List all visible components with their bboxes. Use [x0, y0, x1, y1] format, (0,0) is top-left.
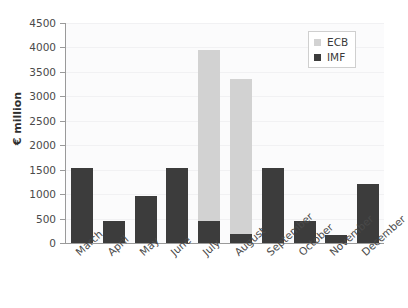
- imf-swatch-icon: [314, 54, 321, 61]
- bar-segment-ecb[interactable]: [230, 79, 252, 234]
- y-tick-label: 1000: [0, 189, 56, 199]
- bar-group: [71, 168, 93, 243]
- bar-segment-ecb[interactable]: [198, 50, 220, 221]
- y-tick-mark: [60, 96, 65, 97]
- y-tick-mark: [60, 243, 65, 244]
- legend-item-imf[interactable]: IMF: [314, 51, 348, 63]
- gridline: [66, 194, 384, 195]
- y-tick-mark: [60, 170, 65, 171]
- legend-label-ecb: ECB: [327, 37, 348, 47]
- y-tick-mark: [60, 219, 65, 220]
- y-tick-mark: [60, 47, 65, 48]
- y-tick-label: 2000: [0, 140, 56, 150]
- gridline: [66, 72, 384, 73]
- y-tick-label: 0: [0, 238, 56, 248]
- gridline: [66, 96, 384, 97]
- bar-group: [166, 168, 188, 243]
- y-tick-label: 3000: [0, 91, 56, 101]
- y-tick-mark: [60, 121, 65, 122]
- y-tick-mark: [60, 23, 65, 24]
- cropped-caption-artifact: [63, 1, 133, 5]
- gridline: [66, 145, 384, 146]
- chart-legend: ECB IMF: [308, 31, 356, 68]
- y-tick-label: 4000: [0, 42, 56, 52]
- gridline: [66, 219, 384, 220]
- y-tick-label: 2500: [0, 116, 56, 126]
- y-axis-line: [65, 23, 66, 244]
- y-tick-label: 4500: [0, 18, 56, 28]
- y-tick-mark: [60, 72, 65, 73]
- y-tick-mark: [60, 145, 65, 146]
- y-tick-mark: [60, 194, 65, 195]
- bar-segment-imf[interactable]: [166, 168, 188, 243]
- gridline: [66, 121, 384, 122]
- bar-group: [198, 50, 220, 243]
- legend-item-ecb[interactable]: ECB: [314, 36, 348, 48]
- gridline: [66, 170, 384, 171]
- y-tick-label: 1500: [0, 165, 56, 175]
- ecb-swatch-icon: [314, 39, 321, 46]
- y-tick-label: 500: [0, 214, 56, 224]
- legend-label-imf: IMF: [327, 52, 345, 62]
- bar-segment-imf[interactable]: [71, 168, 93, 243]
- y-tick-label: 3500: [0, 67, 56, 77]
- gridline: [66, 23, 384, 24]
- bar-group: [230, 79, 252, 243]
